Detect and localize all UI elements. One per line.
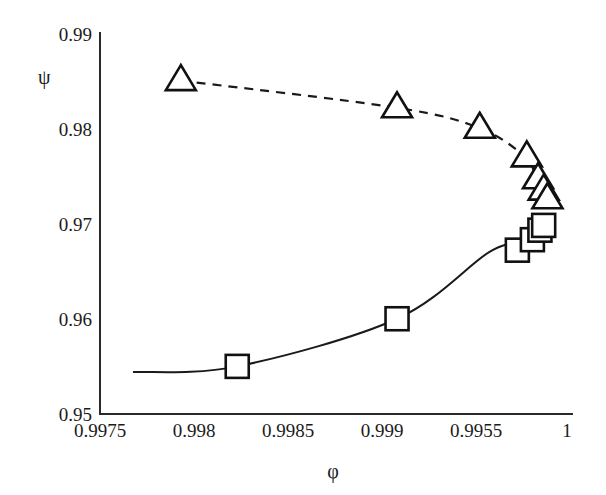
y-tick-label: 0.99 [59,24,92,45]
series-markers-upper-branch [166,65,563,208]
data-point-square [386,307,409,330]
x-tick-label: 0.9955 [450,420,502,441]
series-markers-lower-branch [226,214,555,378]
x-tick-label: 0.9985 [262,420,314,441]
y-axis-tick-labels: 0.95 0.96 0.97 0.98 0.99 [59,24,92,425]
x-tick-label: 1 [562,420,572,441]
data-point-square [532,214,555,237]
y-tick-label: 0.97 [59,214,92,235]
x-tick-label: 0.9975 [74,420,126,441]
x-axis-title: φ [327,460,339,483]
y-axis-title: ψ [38,66,51,89]
y-tick-label: 0.96 [59,309,92,330]
x-axis-tick-labels: 0.9975 0.998 0.9985 0.999 0.9955 1 [74,420,572,441]
x-tick-label: 0.998 [173,420,216,441]
data-point-triangle [166,65,196,90]
x-tick-label: 0.999 [361,420,404,441]
series-line-upper-branch [181,81,548,200]
data-point-triangle [382,92,412,117]
psi-phi-plot: ψ φ 0.95 0.96 0.97 0.98 0.99 0.9975 0.99… [0,0,606,495]
y-tick-label: 0.98 [59,119,92,140]
data-point-square [226,355,249,378]
series-line-lower-branch [134,224,546,373]
chart-container: ψ φ 0.95 0.96 0.97 0.98 0.99 0.9975 0.99… [0,0,606,495]
series-layer [134,65,563,378]
